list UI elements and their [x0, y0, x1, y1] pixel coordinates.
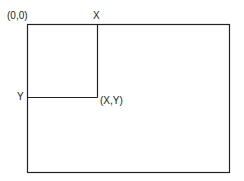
coordinate-diagram: [0, 0, 244, 181]
x-label: X: [93, 11, 100, 21]
point-label: (X,Y): [100, 96, 123, 106]
y-label: Y: [17, 92, 24, 102]
origin-label: (0,0): [7, 11, 28, 21]
outer-screen-rect: [28, 25, 230, 173]
